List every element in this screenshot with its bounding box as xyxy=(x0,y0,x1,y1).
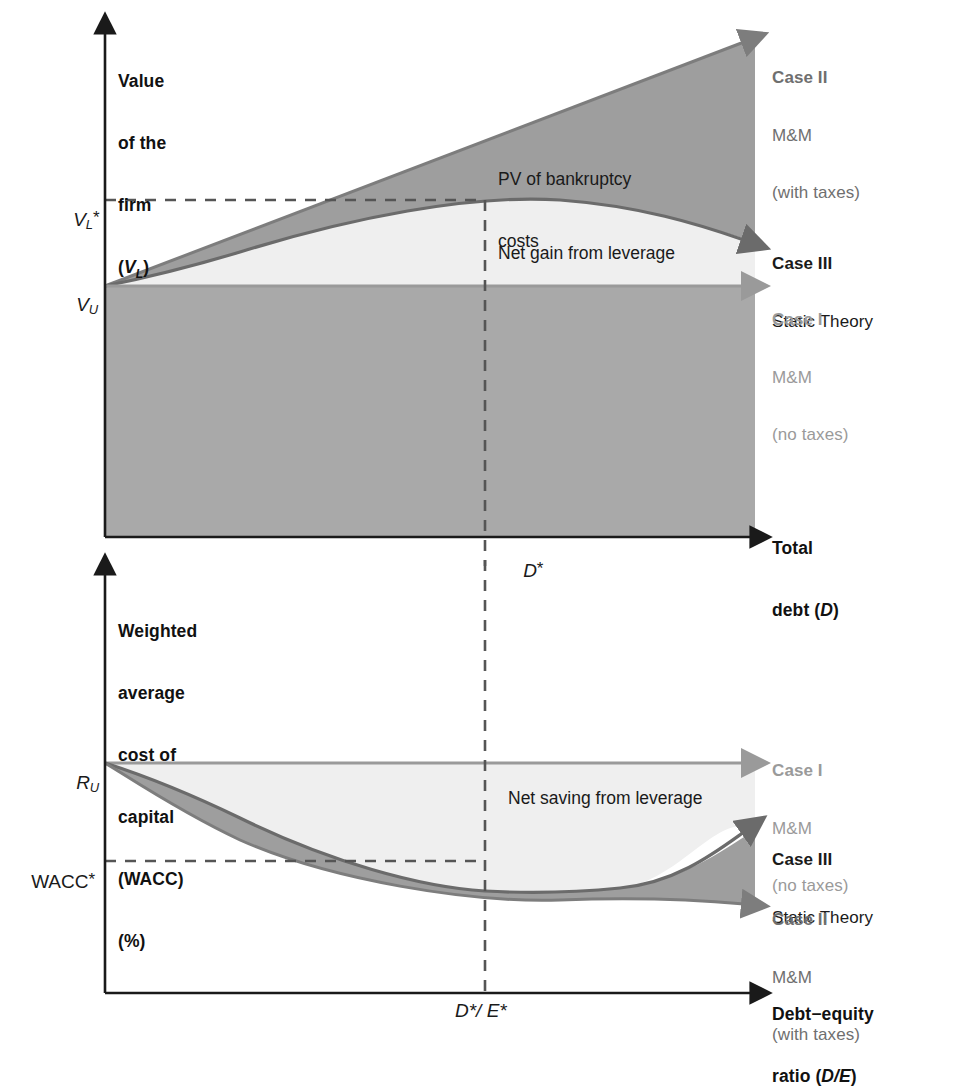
top-legend-case-2-sub2: (with taxes) xyxy=(772,183,952,203)
bottom-legend-case-2-sub2: (with taxes) xyxy=(772,1025,952,1045)
annotation-net-gain-from-leverage: Net gain from leverage xyxy=(498,243,675,264)
bottom-xmark-d-e-star: D*/ E* xyxy=(455,1000,507,1022)
top-legend-case-2: Case II M&M (with taxes) xyxy=(772,30,952,241)
top-x-axis-title: Total debt (D) xyxy=(772,497,942,662)
annotation-net-saving-from-leverage: Net saving from leverage xyxy=(508,788,703,809)
top-legend-case-2-sub1: M&M xyxy=(772,126,952,146)
top-ymark-vl-star: VL* xyxy=(52,186,100,255)
top-legend-case-1-sub1: M&M xyxy=(772,368,952,388)
bottom-legend-case-2-head: Case II xyxy=(772,910,952,930)
bottom-ymark-ru: RU xyxy=(55,750,99,818)
bottom-legend-case-2-sub1: M&M xyxy=(772,968,952,988)
bottom-ymark-wacc-star: WACC* xyxy=(10,848,95,916)
top-legend-case-1: Case I M&M (no taxes) xyxy=(772,272,952,483)
annotation-pv-bankruptcy-costs: PV of bankruptcy costs xyxy=(498,128,728,293)
region-below-vu xyxy=(105,286,755,537)
bottom-legend-case-1-head: Case I xyxy=(772,761,952,781)
top-legend-case-2-head: Case II xyxy=(772,68,952,88)
top-y-axis-title: Value of the firm ((VVL) xyxy=(118,30,248,322)
top-legend-case-3-head: Case III xyxy=(772,254,958,274)
bottom-legend-case-2: Case II M&M (with taxes) xyxy=(772,872,952,1083)
top-xmark-d-star: D* xyxy=(502,537,543,605)
top-ymark-vu: VU xyxy=(55,272,98,340)
bottom-legend-case-3-head: Case III xyxy=(772,850,958,870)
top-legend-case-1-head: Case I xyxy=(772,310,952,330)
bottom-y-axis-title: Weighted average cost of capital (WACC) … xyxy=(118,580,288,993)
top-legend-case-1-sub2: (no taxes) xyxy=(772,425,952,445)
